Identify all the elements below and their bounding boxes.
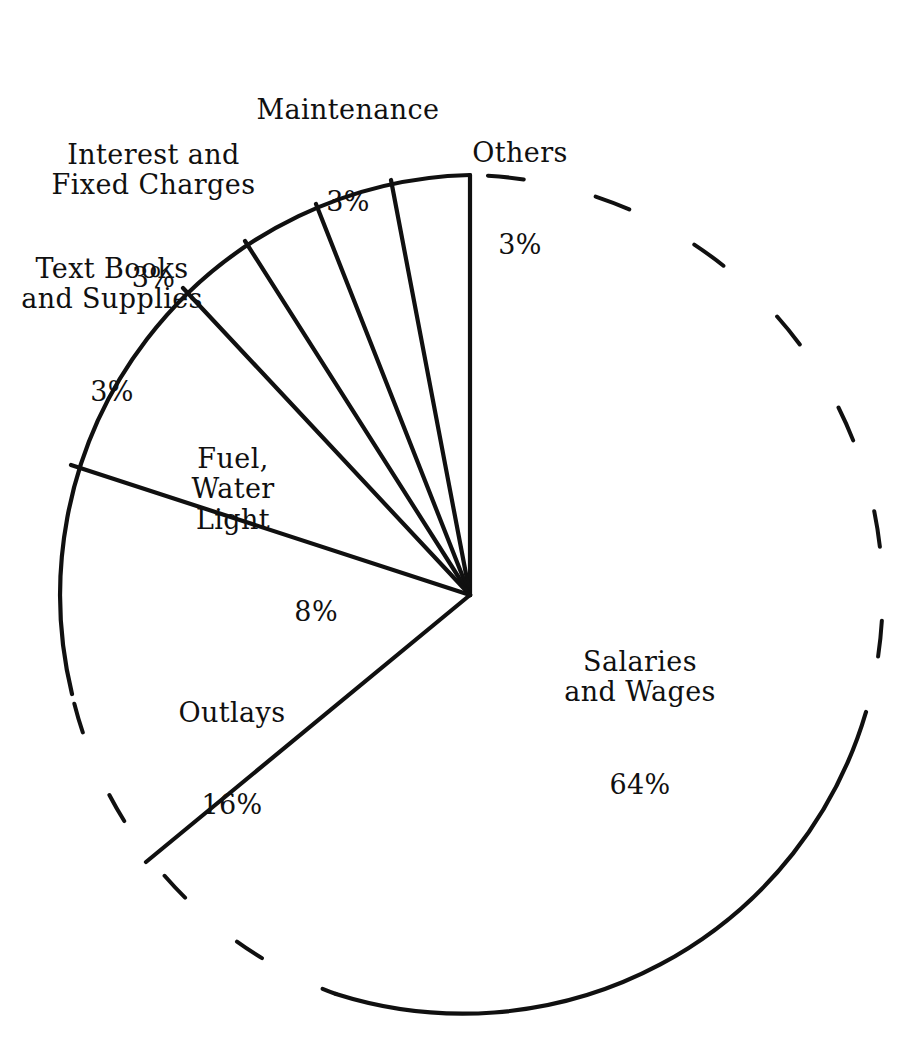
slice-label-fuel-percent: 8% <box>128 597 338 628</box>
slice-label-salaries-and-wages: Salaries and Wages 64% <box>530 585 750 862</box>
slice-label-maintenance-percent: 3% <box>248 187 448 218</box>
pie-chart-figure: Maintenance 3% Others 3% Interest and Fi… <box>0 0 902 1047</box>
slice-label-outlays-percent: 16% <box>132 790 332 821</box>
slice-label-outlays-name: Outlays <box>132 698 332 729</box>
slice-label-salaries-percent: 64% <box>530 770 750 801</box>
slice-label-maintenance-name: Maintenance <box>248 95 448 126</box>
slice-label-textbooks-name: Text Books and Supplies <box>14 254 210 316</box>
slice-label-others-name: Others <box>455 138 585 169</box>
slice-label-fuel-name: Fuel, Water Light <box>128 444 338 536</box>
slice-label-maintenance: Maintenance 3% <box>248 33 448 279</box>
slice-label-outlays: Outlays 16% <box>132 636 332 882</box>
slice-label-others-percent: 3% <box>455 230 585 261</box>
slice-label-others: Others 3% <box>455 76 585 322</box>
slice-label-salaries-name: Salaries and Wages <box>530 647 750 709</box>
